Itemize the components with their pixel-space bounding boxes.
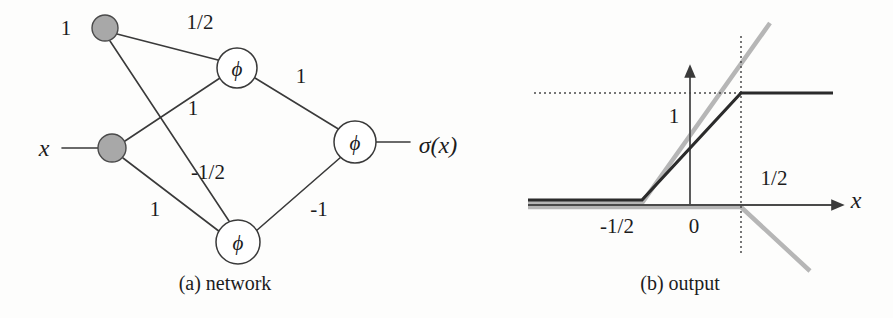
caption-network: (a) network (179, 272, 272, 295)
figure-root: ϕ ϕ ϕ 1 x 1/2 1 -1/2 1 1 -1 σ(x) (a) net… (0, 0, 893, 318)
y-value-one-label: 1 (669, 106, 680, 127)
edge-hidden-bottom-to-output (256, 157, 341, 231)
hidden-node-bottom-glyph: ϕ (233, 233, 244, 254)
weight-x-to-top: 1 (188, 98, 199, 119)
weight-top-to-output: 1 (296, 66, 307, 87)
x-tick-neg-half-label: -1/2 (600, 216, 634, 237)
network-nodes (92, 15, 376, 264)
series-relu-negative (528, 207, 810, 271)
input-node-bias[interactable] (92, 15, 118, 41)
output-node-glyph: ϕ (350, 133, 361, 154)
edge-bias-to-hidden-top (117, 34, 218, 60)
x-tick-zero-label: 0 (689, 216, 700, 237)
caption-output: (b) output (640, 272, 719, 295)
weight-bias-to-bottom: -1/2 (191, 162, 225, 183)
input-node-x[interactable] (98, 134, 126, 162)
edge-x-to-hidden-top (125, 78, 220, 141)
series-relu-positive (528, 23, 770, 203)
weight-x-to-bottom: 1 (150, 199, 161, 220)
x-tick-half-label: 1/2 (761, 168, 788, 189)
plot-guides (534, 36, 742, 255)
output-plot-svg (450, 0, 893, 318)
bias-input-label: 1 (61, 18, 72, 39)
x-input-label: x (39, 136, 50, 160)
network-graph-svg (0, 0, 450, 318)
weight-bottom-to-output: -1 (310, 199, 328, 220)
weight-bias-to-top: 1/2 (187, 12, 214, 33)
x-axis-name-label: x (851, 188, 862, 212)
hidden-node-top-glyph: ϕ (232, 59, 243, 80)
panel-network-diagram: ϕ ϕ ϕ 1 x 1/2 1 -1/2 1 1 -1 σ(x) (a) net… (0, 0, 450, 318)
panel-output-plot: 1 -1/2 0 1/2 x (b) output (450, 0, 893, 318)
plot-helper-curves (528, 23, 810, 271)
